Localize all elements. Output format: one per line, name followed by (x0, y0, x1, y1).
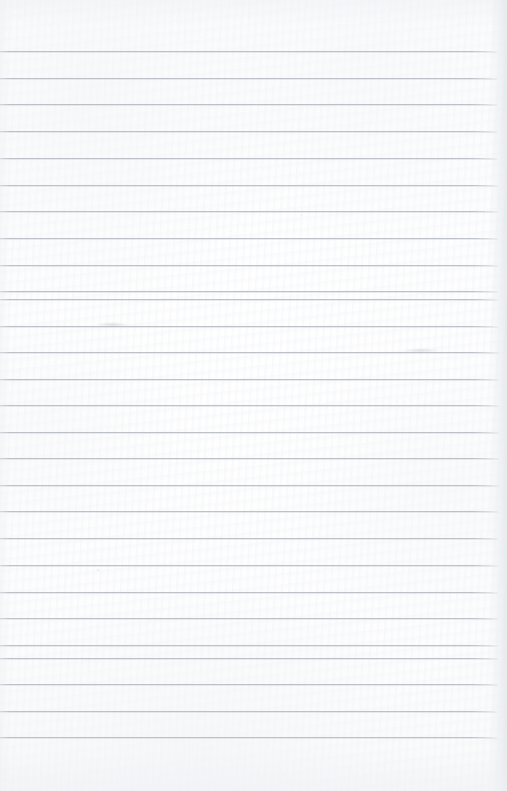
rule-line-fade-tip (472, 645, 498, 646)
rule-line (0, 299, 498, 300)
rule-line-fade-tip (472, 538, 498, 539)
rule-line (0, 565, 498, 566)
rule-line (0, 485, 499, 486)
rule-line-fade-tip (472, 185, 498, 186)
rule-line (0, 684, 498, 685)
rule-line (0, 645, 498, 646)
rule-line (0, 511, 499, 512)
rule-line (0, 618, 498, 619)
rule-line-fade-tip (472, 592, 498, 593)
rule-line (0, 432, 499, 433)
rule-line-fade-tip (473, 405, 499, 406)
rule-line (0, 265, 498, 266)
rule-line (0, 78, 497, 79)
rule-line-fade-tip (471, 78, 497, 79)
rule-line-fade-tip (473, 379, 499, 380)
rule-line (0, 379, 499, 380)
rule-line-fade-tip (471, 158, 497, 159)
scanned-page (0, 0, 507, 791)
rule-line-fade-tip (472, 265, 498, 266)
rule-line-fade-tip (473, 352, 499, 353)
rule-line-fade-tip (472, 291, 498, 292)
rule-line (0, 711, 497, 712)
rule-line-fade-tip (471, 51, 497, 52)
rule-line-fade-tip (472, 618, 498, 619)
rule-line (0, 238, 498, 239)
rule-line-fade-tip (473, 458, 499, 459)
rule-line-fade-tip (471, 737, 497, 738)
rule-line-fade-tip (472, 326, 498, 327)
rule-line (0, 51, 497, 52)
rule-line-fade-tip (472, 684, 498, 685)
rule-line (0, 405, 499, 406)
rule-line (0, 352, 499, 353)
rule-line-fade-tip (473, 511, 499, 512)
rule-line-fade-tip (472, 565, 498, 566)
rule-line-fade-tip (471, 104, 497, 105)
rule-line (0, 538, 498, 539)
rule-line (0, 658, 498, 659)
rule-line-fade-tip (471, 131, 497, 132)
rule-line (0, 458, 499, 459)
rule-line (0, 211, 498, 212)
rule-line-fade-tip (472, 211, 498, 212)
rule-line (0, 326, 498, 327)
rule-line-fade-tip (471, 711, 497, 712)
paper-background (0, 0, 507, 791)
rule-line-fade-tip (472, 299, 498, 300)
rule-line (0, 185, 498, 186)
rule-line (0, 737, 497, 738)
rule-line-fade-tip (473, 485, 499, 486)
rule-line (0, 158, 497, 159)
rule-line-fade-tip (472, 658, 498, 659)
rule-line-fade-tip (473, 432, 499, 433)
rule-line (0, 291, 498, 292)
rule-line (0, 104, 497, 105)
rule-line (0, 592, 498, 593)
rule-line-fade-tip (472, 238, 498, 239)
rule-line (0, 131, 497, 132)
